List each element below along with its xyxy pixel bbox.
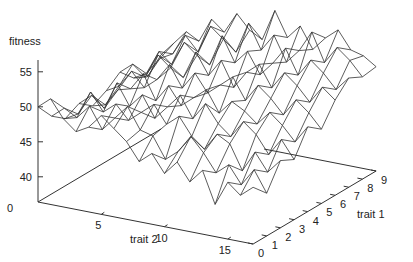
y-tick bbox=[316, 202, 321, 203]
y-tick bbox=[275, 227, 280, 228]
y-tick-label: 7 bbox=[354, 190, 360, 202]
y-tick-label: 2 bbox=[285, 231, 291, 243]
y-tick-label: 0 bbox=[258, 247, 264, 259]
y-tick bbox=[371, 170, 376, 171]
z-tick-label: 50 bbox=[20, 101, 32, 113]
mesh-column bbox=[228, 48, 351, 185]
y-tick bbox=[357, 178, 362, 179]
mesh-row bbox=[52, 106, 267, 193]
z-tick-label: 40 bbox=[20, 171, 32, 183]
y-tick bbox=[344, 186, 349, 187]
floor-back-left-edge bbox=[38, 129, 161, 202]
y-tick-label: 3 bbox=[299, 223, 305, 235]
surface-plot: 40455055510150123456789 fitness trait 2 … bbox=[0, 0, 413, 262]
mesh-column bbox=[38, 55, 161, 119]
y-tick-label: 9 bbox=[381, 174, 387, 186]
x-axis-label: trait 2 bbox=[130, 233, 158, 245]
mesh-column bbox=[203, 32, 326, 173]
mesh-column bbox=[215, 30, 338, 205]
floor-back-right-edge bbox=[264, 149, 376, 171]
mesh-column bbox=[139, 23, 262, 161]
y-tick bbox=[248, 243, 253, 244]
x-tick bbox=[101, 212, 104, 214]
y-tick bbox=[289, 219, 294, 220]
y-tick bbox=[262, 235, 267, 236]
y-tick bbox=[303, 211, 308, 212]
y-tick-label: 5 bbox=[326, 206, 332, 218]
surface-mesh bbox=[38, 11, 376, 205]
x-tick-label: 15 bbox=[219, 244, 231, 256]
z-tick-label: 45 bbox=[20, 136, 32, 148]
y-tick-label: 4 bbox=[313, 215, 319, 227]
y-axis-label: trait 1 bbox=[357, 208, 385, 220]
z-base-label: 0 bbox=[7, 202, 13, 214]
x-tick-label: 5 bbox=[95, 219, 101, 231]
z-axis-label: fitness bbox=[9, 35, 41, 47]
y-tick-label: 1 bbox=[272, 239, 278, 251]
x-tick bbox=[228, 237, 231, 239]
z-tick-label: 55 bbox=[20, 66, 32, 78]
y-tick-label: 6 bbox=[340, 198, 346, 210]
x-tick bbox=[165, 225, 168, 227]
mesh-column bbox=[253, 67, 376, 194]
y-tick-label: 8 bbox=[367, 182, 373, 194]
y-tick bbox=[330, 194, 335, 195]
plot-canvas: 40455055510150123456789 fitness trait 2 … bbox=[0, 0, 413, 262]
